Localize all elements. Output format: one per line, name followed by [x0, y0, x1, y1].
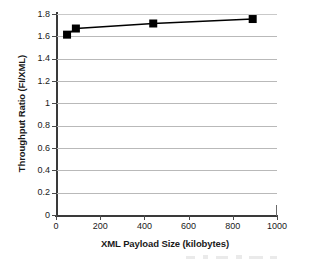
data-series-layer	[0, 0, 311, 264]
data-point-marker	[63, 31, 71, 39]
data-point-marker	[249, 15, 257, 23]
scan-artifact	[203, 255, 208, 259]
scan-artifact	[186, 256, 195, 259]
scan-artifact	[270, 256, 277, 259]
scan-artifact	[249, 256, 263, 259]
scan-artifact	[216, 256, 228, 259]
throughput-ratio-line-chart: Throughput Ratio (FI/XML) XML Payload Si…	[0, 0, 311, 264]
data-point-marker	[149, 19, 157, 27]
series-line	[67, 19, 253, 35]
data-point-marker	[72, 25, 80, 33]
scan-artifact	[236, 255, 242, 259]
